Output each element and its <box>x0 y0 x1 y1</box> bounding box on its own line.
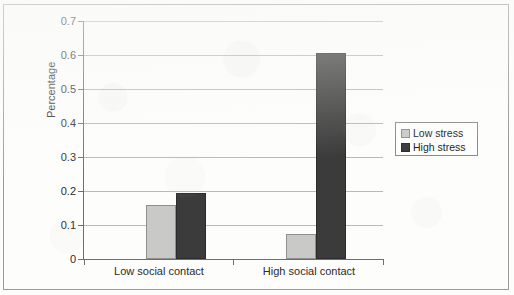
gridline-0.7 <box>84 21 383 22</box>
y-tick-mark-0.2 <box>78 191 83 192</box>
legend-swatch-high-stress-icon <box>401 143 410 152</box>
y-tick-mark-0.3 <box>78 157 83 158</box>
y-tick-label-0.7: 0.7 <box>42 16 76 27</box>
x-tick-mark-end <box>383 259 384 265</box>
y-tick-label-0.4: 0.4 <box>42 118 76 129</box>
legend-swatch-low-stress-icon <box>401 129 410 138</box>
x-category-label-low-social-contact: Low social contact <box>109 266 209 277</box>
bar-high-social-contact-high-stress <box>316 53 346 259</box>
y-tick-label-0.2: 0.2 <box>42 186 76 197</box>
bar-low-social-contact-high-stress <box>176 193 206 259</box>
legend-item-low-stress: Low stress <box>401 127 473 140</box>
x-category-label-high-social-contact: High social contact <box>257 266 361 277</box>
legend: Low stress High stress <box>395 122 478 156</box>
bar-low-social-contact-low-stress <box>146 205 176 259</box>
y-axis-line <box>83 21 84 260</box>
bar-chart-figure: 0.7 0.6 0.5 0.4 0.3 0.2 0.1 0 Percentage… <box>0 0 514 295</box>
y-tick-mark-0.1 <box>78 225 83 226</box>
legend-label-low-stress: Low stress <box>413 128 463 139</box>
x-axis-line <box>84 259 384 260</box>
y-tick-label-0.6: 0.6 <box>42 50 76 61</box>
y-tick-mark-0.7 <box>78 21 83 22</box>
y-axis-title: Percentage <box>46 104 57 118</box>
bar-high-social-contact-low-stress <box>286 234 316 259</box>
y-tick-mark-0 <box>78 259 83 260</box>
y-tick-label-0.3: 0.3 <box>42 152 76 163</box>
plot-area <box>84 21 383 259</box>
y-tick-label-0: 0 <box>42 254 76 265</box>
y-tick-label-0.1: 0.1 <box>42 220 76 231</box>
legend-label-high-stress: High stress <box>413 142 466 153</box>
legend-item-high-stress: High stress <box>401 141 473 154</box>
y-tick-mark-0.5 <box>78 89 83 90</box>
x-tick-mark-start <box>84 259 85 265</box>
x-tick-mark-middle <box>233 259 234 265</box>
y-tick-mark-0.4 <box>78 123 83 124</box>
y-tick-mark-0.6 <box>78 55 83 56</box>
